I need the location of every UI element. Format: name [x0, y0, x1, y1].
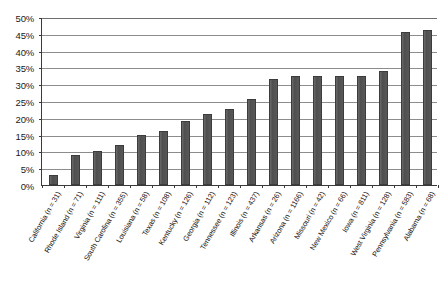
y-axis-tick-label: 0%: [21, 181, 34, 192]
y-axis-tick-label: 20%: [16, 113, 34, 124]
y-axis-tick-label: 15%: [16, 130, 34, 141]
y-axis-tick-label: 45%: [16, 29, 34, 40]
y-axis-tick-label: 30%: [16, 80, 34, 91]
y-axis-tick-label: 40%: [16, 46, 34, 57]
y-axis-tick-label: 5%: [21, 164, 34, 175]
bar-chart: 50%45%40%35%30%25%20%15%10%5%0% Californ…: [0, 0, 442, 289]
y-axis: 50%45%40%35%30%25%20%15%10%5%0%: [0, 0, 41, 190]
x-axis-labels: California (n = 31)Rhode Island (n = 71)…: [41, 190, 437, 289]
y-axis-tick-label: 10%: [16, 147, 34, 158]
y-axis-tick-label: 25%: [16, 97, 34, 108]
y-axis-tick-label: 35%: [16, 63, 34, 74]
y-axis-tick-label: 50%: [16, 13, 34, 24]
x-axis-tick: [42, 185, 43, 188]
